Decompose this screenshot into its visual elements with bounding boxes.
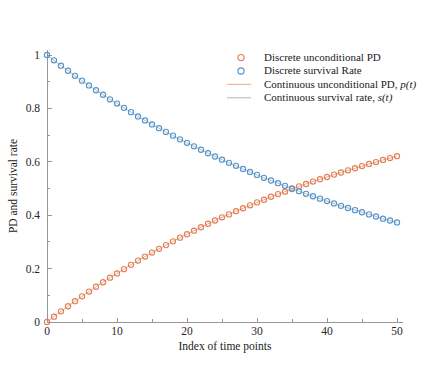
pd-survival-scatter-chart: 01020304050 00.20.40.60.81 Index of time… [0, 0, 437, 366]
x-axis-title: Index of time points [179, 340, 272, 353]
legend-label: Discrete unconditional PD [264, 51, 381, 63]
legend-label: Continuous survival rate, s(t) [264, 91, 393, 104]
x-tick-label: 40 [321, 325, 333, 337]
x-tick-label: 10 [111, 325, 123, 337]
legend-label: Discrete survival Rate [264, 64, 362, 76]
x-tick-label: 20 [181, 325, 193, 337]
y-tick-label: 1 [34, 49, 40, 61]
x-tick-label: 0 [44, 325, 50, 337]
y-tick-label: 0.6 [26, 156, 41, 168]
y-tick-label: 0.4 [26, 209, 41, 221]
y-tick-label: 0 [34, 316, 40, 328]
x-tick-label: 50 [391, 325, 403, 337]
y-tick-label: 0.2 [26, 263, 41, 275]
y-axis-title: PD and survival rate [7, 139, 19, 233]
chart-figure: 01020304050 00.20.40.60.81 Index of time… [0, 0, 437, 366]
y-tick-label: 0.8 [26, 102, 41, 114]
legend-label: Continuous unconditional PD, p(t) [264, 78, 417, 91]
x-tick-label: 30 [251, 325, 263, 337]
